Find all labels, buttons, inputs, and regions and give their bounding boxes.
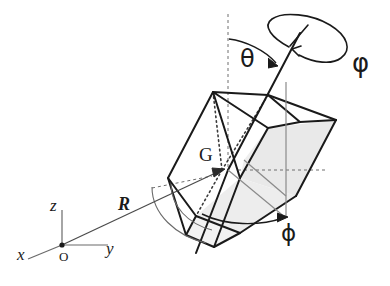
centre-of-mass-label: G — [199, 145, 213, 164]
prism-top-face-edge-right — [268, 95, 336, 120]
figure-root: z x y O R G θ φ ϕ — [0, 0, 390, 286]
phi-label: ϕ — [281, 222, 296, 245]
axis-label-y: y — [106, 240, 114, 257]
axis-x-line — [28, 245, 62, 259]
prism-top-face — [213, 92, 300, 128]
spin-axis-tick — [290, 25, 308, 46]
spin-ellipse-arc — [268, 14, 347, 62]
spin-rotation-ellipse — [268, 14, 347, 62]
prism-ridge-front — [213, 92, 240, 178]
vector-R-label: R — [118, 195, 130, 213]
theta-label: θ — [240, 47, 255, 71]
varphi-label: φ — [352, 50, 369, 76]
horizontal-reference-dashed-left — [152, 176, 212, 188]
axis-label-x: x — [17, 246, 25, 263]
origin-dot — [59, 242, 64, 247]
axis-label-z: z — [50, 197, 57, 214]
origin-label: O — [59, 250, 68, 263]
diagram-canvas — [0, 0, 390, 286]
